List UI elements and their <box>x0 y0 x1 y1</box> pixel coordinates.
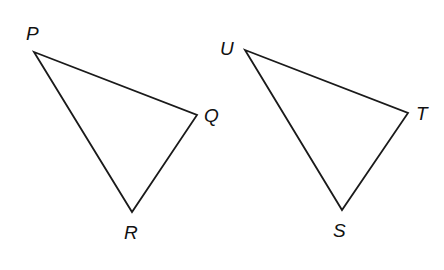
vertex-label-r: R <box>124 222 138 243</box>
triangle-pqr: P Q R <box>26 23 219 243</box>
triangle-pqr-shape <box>34 52 197 212</box>
vertex-label-u: U <box>220 38 234 59</box>
triangle-uts: U T S <box>220 38 429 241</box>
vertex-label-s: S <box>333 220 346 241</box>
vertex-label-q: Q <box>204 105 219 126</box>
triangle-uts-shape <box>245 50 408 210</box>
vertex-label-p: P <box>26 23 39 44</box>
vertex-label-t: T <box>416 103 429 124</box>
congruent-triangles-diagram: P Q R U T S <box>0 0 444 270</box>
